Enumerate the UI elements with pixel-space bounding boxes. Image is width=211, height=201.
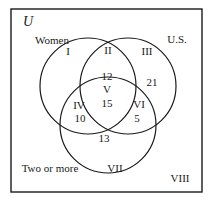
count-women-and-us: 12: [102, 71, 113, 82]
count-women-and-two-or-more: 10: [75, 113, 86, 124]
region-label-i: I: [66, 46, 70, 57]
region-label-vii: VII: [107, 163, 122, 174]
region-label-vi: VI: [133, 99, 145, 110]
set-label-two-or-more: Two or more: [22, 163, 79, 174]
set-label-us: U.S.: [167, 34, 187, 45]
region-label-iii: III: [142, 46, 153, 57]
count-two-or-more-inner: 13: [99, 133, 110, 144]
set-label-women: Women: [35, 35, 69, 46]
circle-women: [40, 38, 136, 134]
region-label-ii: II: [104, 45, 111, 56]
region-label-viii: VIII: [171, 173, 190, 184]
count-us-and-two-or-more: 5: [134, 113, 140, 124]
region-label-iv: IV: [73, 100, 85, 111]
count-all-three: 15: [102, 98, 113, 109]
count-us-only-inner: 21: [147, 77, 158, 88]
universal-set-label: U: [23, 15, 33, 29]
venn-diagram-figure: U Women U.S. Two or more I II III IV V V…: [0, 0, 211, 201]
circle-us: [80, 38, 176, 134]
region-label-v: V: [103, 84, 111, 95]
